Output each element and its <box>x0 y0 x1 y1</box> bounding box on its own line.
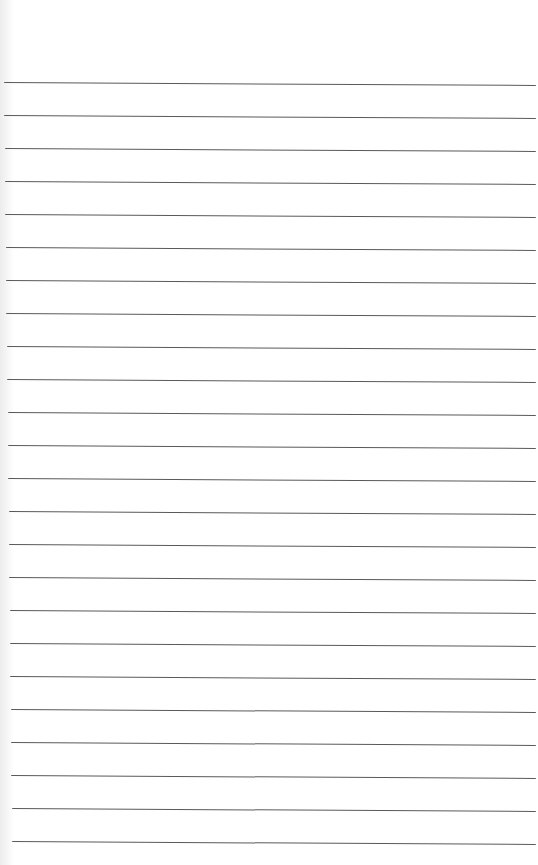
ruled-line <box>11 742 536 746</box>
left-margin-shadow <box>0 0 14 865</box>
ruled-line <box>6 280 536 284</box>
lined-paper-sheet <box>0 0 538 865</box>
ruled-line <box>7 346 536 350</box>
ruled-line <box>9 577 536 581</box>
ruled-line <box>9 511 536 515</box>
ruled-line <box>8 478 536 482</box>
ruled-line <box>11 709 536 713</box>
ruled-line <box>11 775 536 779</box>
ruled-line <box>6 313 536 317</box>
ruled-line <box>8 412 536 416</box>
ruled-line <box>5 214 536 218</box>
ruled-line <box>8 445 536 449</box>
ruled-line <box>9 544 536 548</box>
ruled-line <box>4 115 536 119</box>
ruled-line <box>12 841 536 845</box>
ruled-line <box>5 181 536 185</box>
ruled-line <box>5 148 536 152</box>
ruled-line <box>12 808 536 812</box>
ruled-line <box>10 610 536 614</box>
ruled-line <box>4 82 536 86</box>
ruled-line <box>10 643 536 647</box>
ruled-line <box>10 676 536 680</box>
ruled-line <box>7 379 536 383</box>
ruled-line <box>6 247 536 251</box>
